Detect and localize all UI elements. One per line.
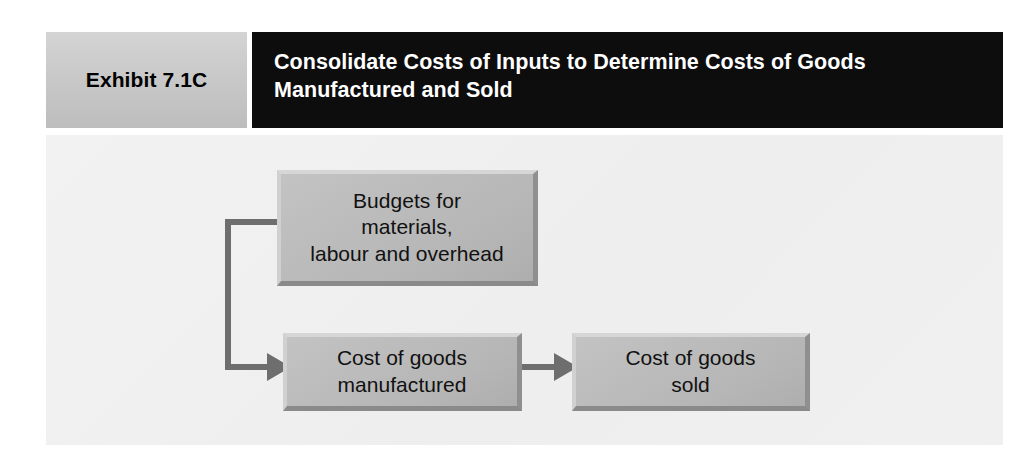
connector-cogm-to-cogs <box>522 353 578 381</box>
exhibit-number-label: Exhibit 7.1C <box>46 32 247 128</box>
process-box-budgets: Budgets for materials, labour and overhe… <box>277 170 538 286</box>
diagram-panel: Budgets for materials, labour and overhe… <box>46 135 1003 445</box>
exhibit-title-text: Consolidate Costs of Inputs to Determine… <box>274 49 983 104</box>
process-box-cost-of-goods-manufactured: Cost of goods manufactured <box>283 333 522 411</box>
exhibit-figure: Exhibit 7.1C Consolidate Costs of Inputs… <box>0 0 1032 475</box>
process-box-cost-of-goods-sold: Cost of goods sold <box>572 333 810 411</box>
process-box-cost-of-goods-manufactured-label: Cost of goods manufactured <box>331 345 473 398</box>
exhibit-title-bar: Consolidate Costs of Inputs to Determine… <box>252 32 1003 128</box>
exhibit-number-text: Exhibit 7.1C <box>86 68 207 92</box>
process-box-budgets-label: Budgets for materials, labour and overhe… <box>304 188 510 268</box>
process-box-cost-of-goods-sold-label: Cost of goods sold <box>619 345 761 398</box>
